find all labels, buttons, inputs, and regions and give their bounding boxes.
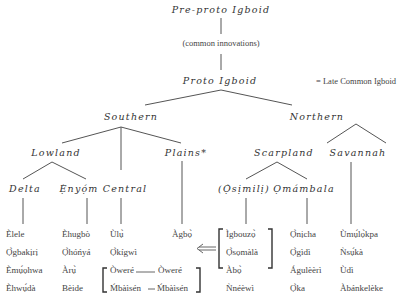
leaf-savannah-2: Ǹsụ́kà (340, 247, 363, 257)
leaf-omambala-4: Ọ̀ka (290, 283, 305, 293)
edge-scarpland-omambala (277, 162, 307, 179)
bracket-osimili-right (268, 229, 272, 268)
leaf-central-mbaisen-a: Ḿbàìsén (110, 283, 141, 293)
edge-southern-lowland (62, 127, 121, 143)
leaf-savannah-1: Ùmụ́lọ̀kpa (340, 229, 378, 239)
leaf-central-mbaisen-b: Ḿbàìsén (157, 283, 188, 293)
bracket-central-left (103, 268, 107, 292)
node-plains: Plains* (165, 147, 207, 158)
double-arrow-head (197, 244, 203, 253)
leaf-central-owere-a: Òweré (110, 265, 134, 275)
node-delta: Delta (9, 183, 41, 194)
node-southern: Southern (104, 111, 158, 122)
node-central: Central (103, 183, 147, 194)
node-omambala: Ọmámbala (273, 183, 335, 194)
node-pre-proto-igboid: Pre-proto Igboid (172, 4, 271, 15)
leaf-osimili-3: Àbọ̀ (226, 265, 242, 275)
node-osimili: (Ọ̀sịmilị) (218, 183, 270, 194)
leaf-omambala-1: Ọ̀nịcha (290, 229, 316, 239)
edge-lowland-delta (23, 162, 52, 179)
leaf-delta-4: Èhwụ́dà (6, 283, 36, 293)
edge-proto-southern (145, 90, 221, 105)
edge-lowland-enyom (52, 162, 86, 179)
leaf-savannah-3: Ùdì (340, 265, 354, 275)
proto-gloss: = Late Common Igboid (316, 76, 396, 86)
leaf-delta-2: Ọ̀gbakịrị (6, 247, 38, 257)
leaf-central-2: Ọ̀kígwì (110, 247, 137, 257)
leaf-savannah-4: Àbánkelèke (340, 283, 383, 293)
node-common-innovations: (common innovations) (182, 38, 259, 48)
leaf-enyom-2: Ọ̀hóńyá (62, 247, 91, 257)
bracket-central-right (196, 268, 200, 292)
bracket-osimili-left (219, 229, 223, 268)
edge-scarpland-osimili (246, 162, 277, 179)
leaf-osimili-2: Ọ̀sọmàlà (226, 247, 258, 257)
leaf-plains-1: Àgbọ̀ (172, 229, 192, 239)
node-lowland: Lowland (31, 147, 80, 158)
leaf-omambala-3: Águlèèrì (290, 265, 322, 275)
leaf-omambala-2: Ọ̀gìdì (290, 247, 311, 257)
leaf-central-owere-b: Òweré (158, 265, 182, 275)
node-enyom: Ẹ̀nyọ́m (59, 183, 98, 194)
edge-northern-scarpland (327, 124, 356, 143)
edge-northern-savannah (356, 124, 386, 143)
edge-southern-plains (121, 127, 181, 143)
leaf-enyom-4: Bèide (62, 283, 83, 293)
node-savannah: Savannah (330, 147, 387, 158)
leaf-delta-1: Èlele (6, 229, 25, 239)
leaf-osimili-1: Ìgbouzọ̀ (226, 229, 256, 239)
leaf-enyom-1: Èhugbò (62, 229, 90, 239)
leaf-osimili-4: Ǹnéèwì (226, 283, 254, 293)
leaf-enyom-3: Àrụ̀ (62, 265, 76, 275)
node-scarpland: Scarpland (254, 147, 314, 158)
node-proto-igboid: Proto Igboid (183, 75, 257, 86)
edge-proto-northern (221, 90, 292, 105)
leaf-delta-3: Èmụ́ọhwa (6, 265, 43, 275)
node-northern: Northern (290, 111, 344, 122)
leaf-central-1: Ùlụ̀ (110, 229, 124, 239)
